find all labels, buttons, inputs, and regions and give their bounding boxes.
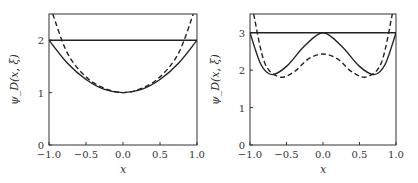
y-tick-label: 1 <box>239 103 245 114</box>
x-tick-label: 0.5 <box>352 149 368 160</box>
left-panel: −1.0−0.50.00.51.0012xψ_D(x, ξ) <box>8 14 205 176</box>
y-tick-label: 1 <box>38 88 44 99</box>
x-tick-label: −0.5 <box>74 149 98 160</box>
y-axis-label: ψ_D(x, ξ) <box>209 54 222 105</box>
y-axis-label: ψ_D(x, ξ) <box>8 54 21 105</box>
x-axis-label: x <box>320 163 327 176</box>
x-axis-label: x <box>120 163 127 176</box>
y-tick-label: 3 <box>239 28 245 39</box>
x-tick-label: 1.0 <box>388 149 404 160</box>
plot-frame <box>49 14 197 145</box>
solid-curve <box>49 40 197 92</box>
y-tick-label: 2 <box>38 35 44 46</box>
dashed-curve <box>53 14 194 93</box>
chart-figure: −1.0−0.50.00.51.0012xψ_D(x, ξ) −1.0−0.50… <box>0 0 418 183</box>
x-tick-label: 0.0 <box>115 149 131 160</box>
right-panel: −1.0−0.50.00.51.00123xψ_D(x, ξ) <box>209 14 404 176</box>
plot-frame <box>250 14 396 145</box>
x-tick-label: 1.0 <box>189 149 205 160</box>
y-tick-label: 0 <box>239 140 245 151</box>
y-tick-label: 0 <box>38 140 44 151</box>
y-tick-label: 2 <box>239 65 245 76</box>
x-tick-label: 0.5 <box>152 149 168 160</box>
x-tick-label: −0.5 <box>274 149 298 160</box>
dashed-curve <box>254 14 393 77</box>
x-tick-label: 0.0 <box>315 149 331 160</box>
